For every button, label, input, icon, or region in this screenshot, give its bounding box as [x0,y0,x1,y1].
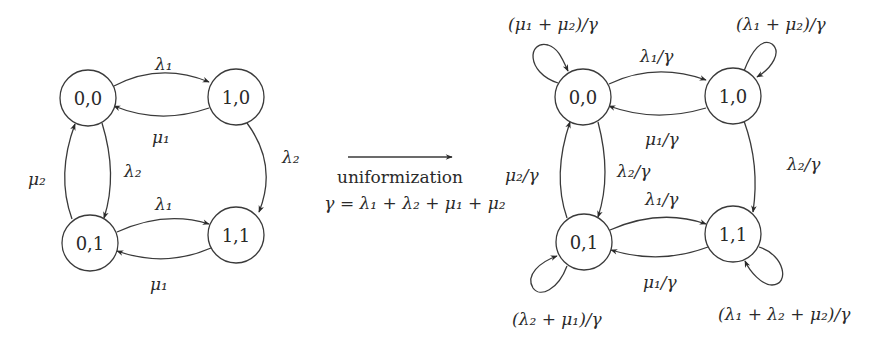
rate-label: λ₁/γ [644,189,679,209]
left-diagram: 0,0 1,0 0,1 1,1 λ₁ μ₁ λ₂ μ₂ λ₂ λ₁ μ₁ [28,54,300,294]
self-loop-label: (μ₁ + μ₂)/γ [508,14,599,34]
edge-01-to-00 [65,124,75,219]
state-label: 1,1 [222,225,251,246]
rate-label: λ₁/γ [639,46,674,66]
self-loop-01 [531,256,567,292]
state-node-0-1: 0,1 [556,214,612,270]
state-label: 1,1 [719,224,748,245]
rate-label: μ₁ [152,127,170,147]
self-loop-label: (λ₂ + μ₁)/γ [512,309,602,329]
self-loop-10 [744,42,776,77]
self-loop-label: (λ₁ + μ₂)/γ [736,14,826,34]
state-node-0-0: 0,0 [555,69,611,125]
edge-10-to-00 [114,106,209,116]
state-label: 0,1 [76,233,105,254]
edge-10-to-00 [609,106,706,115]
state-label: 0,0 [569,87,598,108]
rate-label: λ₁ [154,54,173,74]
rate-label: μ₁/γ [643,272,678,292]
state-label: 0,1 [570,232,599,253]
rate-label: μ₁ [150,274,168,294]
edge-11-to-01 [611,247,708,257]
edge-01-to-11 [610,217,706,230]
state-label: 1,0 [222,87,251,108]
state-node-1-1: 1,1 [705,206,761,262]
state-node-1-0: 1,0 [705,68,761,124]
edge-00-to-01 [598,122,605,217]
gamma-formula: γ = λ₁ + λ₂ + μ₁ + μ₂ [324,193,505,213]
rate-label: λ₂/γ [786,154,821,174]
state-node-1-1: 1,1 [208,207,264,263]
right-diagram: 0,0 1,0 0,1 1,1 λ₁/γ μ₁/γ λ₂/γ μ₂/γ λ₂/γ… [505,14,851,329]
transform-label: uniformization [337,167,463,187]
rate-label: λ₂/γ [616,161,651,181]
state-node-0-1: 0,1 [62,215,118,271]
edge-11-to-01 [117,248,211,259]
rate-label: μ₂ [28,169,46,189]
markov-chain-diagram: 0,0 1,0 0,1 1,1 λ₁ μ₁ λ₂ μ₂ λ₂ λ₁ μ₁ uni… [0,0,894,354]
edge-01-to-11 [117,219,209,232]
state-label: 0,0 [74,88,103,109]
rate-label: λ₂ [123,161,142,181]
edge-10-to-11 [744,121,755,212]
state-label: 1,0 [719,86,748,107]
rate-label: μ₂/γ [505,165,540,185]
edge-00-to-10 [114,73,209,86]
edge-00-to-01 [102,123,111,218]
edge-01-to-00 [560,122,570,218]
state-node-1-0: 1,0 [208,69,264,125]
edge-10-to-11 [247,123,266,212]
rate-label: λ₂ [281,147,300,167]
state-node-0-0: 0,0 [60,70,116,126]
edge-00-to-10 [609,72,706,84]
uniformization-transform: uniformization γ = λ₁ + λ₂ + μ₁ + μ₂ [324,157,505,213]
self-loop-label: (λ₁ + λ₂ + μ₂)/γ [718,304,851,324]
rate-label: μ₁/γ [645,129,680,149]
rate-label: λ₁ [154,194,173,214]
